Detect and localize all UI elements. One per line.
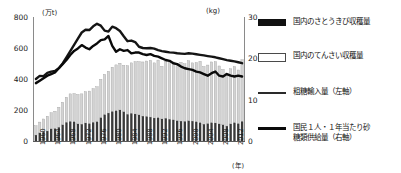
bar-sugarbeet <box>88 91 90 124</box>
left-tick-800: 800 <box>6 13 28 22</box>
chart-canvas <box>34 17 244 141</box>
left-tick-200: 200 <box>6 106 28 115</box>
x-tick-1964: 1964 <box>54 128 62 145</box>
x-tick-1972: 1972 <box>85 128 93 145</box>
thin-line-swatch <box>258 84 288 102</box>
bar-sugarbeet <box>184 64 186 122</box>
bar-sugarcane <box>111 112 113 141</box>
legend-label-percapita-supply: 国民１人・１年当たり砂糖類供給量（右軸） <box>293 120 370 142</box>
x-tick-2012: 2012 <box>237 128 245 145</box>
bar-sugarcane <box>203 124 205 141</box>
x-tick-2000: 2000 <box>192 128 200 145</box>
bar-sugarcane <box>35 135 37 141</box>
bar-sugarbeet <box>210 62 212 123</box>
right-axis-line <box>244 17 245 142</box>
bar-sugarbeet <box>123 65 125 112</box>
bar-sugarcane <box>187 121 189 141</box>
bar-sugarcane <box>96 122 98 141</box>
bar-sugarbeet <box>111 67 113 111</box>
bar-sugarbeet <box>226 73 228 126</box>
bar-sugarbeet <box>168 60 170 119</box>
white-bar-swatch <box>258 48 288 66</box>
bar-sugarcane <box>81 124 83 141</box>
bar-sugarbeet <box>241 60 243 122</box>
bar-sugarcane <box>50 129 52 141</box>
legend-label-rawsugar-import: 粗糖輸入量（左軸） <box>293 84 356 97</box>
x-tick-1980: 1980 <box>115 128 123 145</box>
bar-sugarbeet <box>145 61 147 116</box>
x-tick-1960: 1960 <box>39 128 47 145</box>
bar-sugarcane <box>77 124 79 141</box>
bar-sugarcane <box>157 118 159 141</box>
bar-sugarbeet <box>84 92 86 123</box>
x-tick-1992: 1992 <box>161 128 169 145</box>
bar-sugarbeet <box>142 62 144 116</box>
bar-sugarbeet <box>115 65 117 111</box>
bar-sugarbeet <box>126 66 128 115</box>
legend-label-sugarbeet: 国内のてんさい収穫量 <box>293 48 363 61</box>
left-tick-600: 600 <box>6 44 28 53</box>
bar-sugarbeet <box>180 62 182 121</box>
bar-sugarbeet <box>58 107 60 127</box>
bar-sugarbeet <box>119 63 121 110</box>
bar-sugarcane <box>233 123 235 141</box>
bar-sugarbeet <box>61 102 63 125</box>
bar-sugarbeet <box>77 95 79 124</box>
bar-sugarbeet <box>92 89 94 123</box>
bar-sugarbeet <box>191 63 193 121</box>
bar-sugarbeet <box>237 70 239 124</box>
x-tick-1984: 1984 <box>131 128 139 145</box>
bar-sugarcane <box>218 124 220 141</box>
bar-sugarcane <box>126 114 128 141</box>
bar-sugarbeet <box>100 79 102 117</box>
legend-item-sugarcane: 国内のさとうきび収穫量 <box>258 14 400 32</box>
bar-sugarbeet <box>65 97 67 122</box>
bar-sugarbeet <box>35 126 37 135</box>
bar-sugarcane <box>65 122 67 141</box>
chart-figure: (万t) (kg) 8006004002000 3020100 19601964… <box>0 0 401 173</box>
bar-sugarbeet <box>161 66 163 119</box>
x-tick-2008: 2008 <box>222 128 230 145</box>
bar-sugarcane <box>172 120 174 141</box>
plot-area <box>34 17 244 141</box>
x-tick-2004: 2004 <box>207 128 215 145</box>
thick-line-swatch <box>258 120 288 138</box>
bar-sugarbeet <box>69 94 71 122</box>
black-bar-swatch <box>258 14 288 32</box>
bar-sugarbeet <box>233 67 235 123</box>
x-tick-1976: 1976 <box>100 128 108 145</box>
x-tick-1968: 1968 <box>69 128 77 145</box>
left-axis-unit-label: (万t) <box>42 7 57 17</box>
bar-sugarbeet <box>157 60 159 118</box>
bar-sugarbeet <box>73 94 75 122</box>
right-axis-unit-label: (kg) <box>206 7 220 15</box>
bar-sugarbeet <box>130 63 132 114</box>
bar-sugarbeet <box>138 62 140 115</box>
bar-sugarbeet <box>149 60 151 117</box>
legend-label-sugarcane: 国内のさとうきび収穫量 <box>293 14 370 27</box>
bar-sugarbeet <box>54 111 56 128</box>
bar-sugarbeet <box>96 87 98 122</box>
bar-sugarbeet <box>176 64 178 121</box>
bar-sugarcane <box>142 116 144 141</box>
x-axis-unit-label: (年) <box>232 160 244 170</box>
legend-item-rawsugar-import: 粗糖輸入量（左軸） <box>258 84 400 102</box>
bar-sugarbeet <box>134 62 136 114</box>
legend-item-sugarbeet: 国内のてんさい収穫量 <box>258 48 400 66</box>
bar-sugarbeet <box>172 62 174 120</box>
left-tick-400: 400 <box>6 75 28 84</box>
bar-sugarbeet <box>50 113 52 129</box>
x-tick-1988: 1988 <box>146 128 154 145</box>
bar-sugarbeet <box>107 71 109 113</box>
legend-item-percapita-supply: 国民１人・１年当たり砂糖類供給量（右軸） <box>258 120 400 142</box>
bar-sugarbeet <box>103 74 105 114</box>
bar-sugarbeet <box>153 63 155 118</box>
bar-sugarbeet <box>165 61 167 118</box>
bar-sugarbeet <box>81 94 83 124</box>
left-tick-0: 0 <box>6 137 28 146</box>
chart-legend: 国内のさとうきび収穫量 国内のてんさい収穫量 粗糖輸入量（左軸） 国民１人・１年… <box>258 14 400 142</box>
bar-sugarbeet <box>199 61 201 122</box>
x-tick-1996: 1996 <box>176 128 184 145</box>
